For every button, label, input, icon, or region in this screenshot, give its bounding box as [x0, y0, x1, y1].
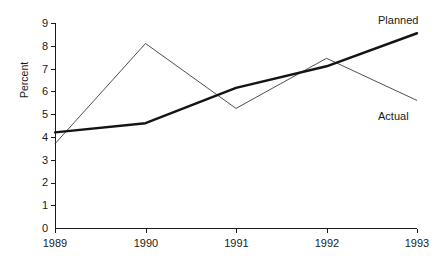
series-line-planned: [55, 33, 417, 132]
x-tick-label-1993: 1993: [405, 237, 429, 249]
x-tick-label-1992: 1992: [315, 237, 339, 249]
y-tick-label-0: 0: [42, 222, 48, 234]
y-axis-title: Percent: [18, 62, 30, 98]
x-tick-label-1989: 1989: [43, 237, 67, 249]
series-label-actual: Actual: [378, 110, 409, 122]
y-tick-label-9: 9: [42, 17, 48, 29]
y-tick-label-8: 8: [42, 40, 48, 52]
series-line-actual: [55, 44, 417, 144]
y-tick-label-2: 2: [42, 176, 48, 188]
y-tick-label-4: 4: [42, 131, 48, 143]
series-label-planned: Planned: [378, 14, 418, 26]
y-tick-label-1: 1: [42, 199, 48, 211]
y-tick-label-5: 5: [42, 108, 48, 120]
y-tick-label-3: 3: [42, 154, 48, 166]
y-tick-label-7: 7: [42, 63, 48, 75]
x-tick-label-1990: 1990: [134, 237, 158, 249]
y-tick-label-6: 6: [42, 85, 48, 97]
chart-canvas: Percent 9 8 7 6 5 4 3 2 1 0 1989 199: [0, 0, 442, 268]
x-tick-label-1991: 1991: [224, 237, 248, 249]
line-chart-figure: Percent 9 8 7 6 5 4 3 2 1 0 1989 199: [0, 0, 442, 268]
